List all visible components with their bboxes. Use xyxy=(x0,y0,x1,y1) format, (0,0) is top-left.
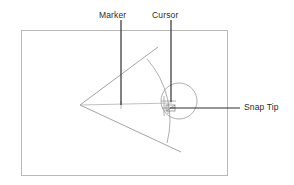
cone-geometry xyxy=(80,47,181,152)
cone-centerline xyxy=(80,103,172,105)
label-snap-tip: Snap Tip xyxy=(244,103,279,112)
cone-upper-ray xyxy=(80,47,158,105)
label-cursor: Cursor xyxy=(152,11,178,20)
diagram-canvas: Marker Cursor Snap Tip xyxy=(0,0,294,185)
label-marker: Marker xyxy=(99,11,126,20)
cone-lower-ray xyxy=(80,105,181,152)
technical-drawing xyxy=(0,0,294,185)
